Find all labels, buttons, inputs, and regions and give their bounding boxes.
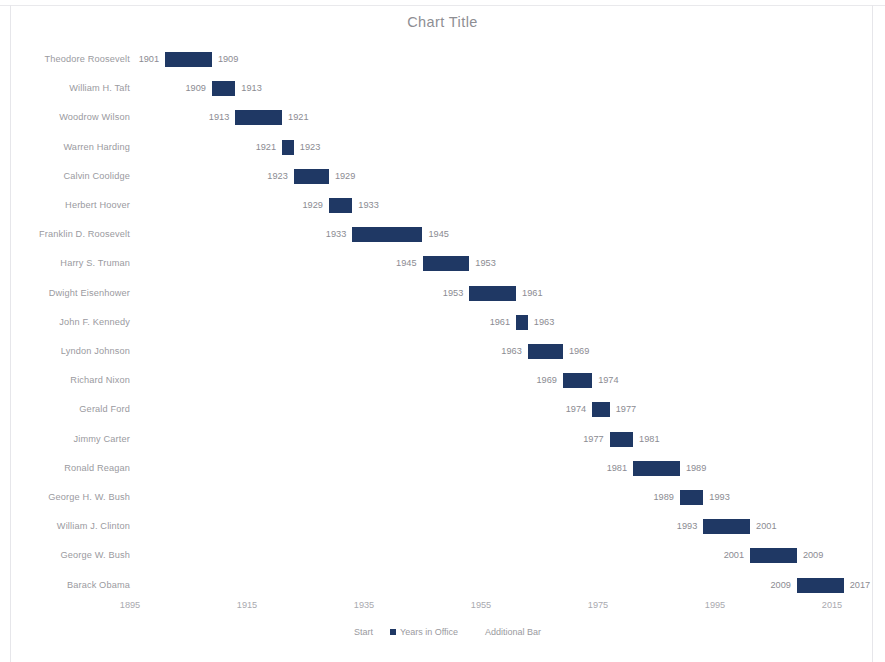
category-label: Ronald Reagan <box>0 457 130 479</box>
bar-start-label: 1909 <box>154 77 206 99</box>
bar-start-label: 1977 <box>552 428 604 450</box>
gantt-bar[interactable] <box>563 373 592 388</box>
gantt-row: Franklin D. Roosevelt19331945 <box>0 223 885 245</box>
gantt-bar[interactable] <box>797 578 844 593</box>
gantt-row: Calvin Coolidge19231929 <box>0 165 885 187</box>
category-label: Franklin D. Roosevelt <box>0 223 130 245</box>
gantt-bar[interactable] <box>282 140 294 155</box>
category-label: Lyndon Johnson <box>0 340 130 362</box>
bar-start-label: 1921 <box>224 136 276 158</box>
gantt-row: Warren Harding19211923 <box>0 136 885 158</box>
bar-end-label: 1953 <box>475 252 495 274</box>
category-label: George W. Bush <box>0 544 130 566</box>
category-label: William J. Clinton <box>0 515 130 537</box>
bar-end-label: 1993 <box>709 486 729 508</box>
gantt-row: Jimmy Carter19771981 <box>0 428 885 450</box>
x-axis: 1895191519351955197519952015 <box>0 600 885 618</box>
bar-end-label: 1977 <box>616 398 636 420</box>
bar-end-label: 1961 <box>522 282 542 304</box>
bar-start-label: 1901 <box>107 48 159 70</box>
gantt-row: Dwight Eisenhower19531961 <box>0 282 885 304</box>
bar-end-label: 1929 <box>335 165 355 187</box>
gantt-row: Barack Obama20092017 <box>0 574 885 596</box>
gantt-row: George W. Bush20012009 <box>0 544 885 566</box>
gantt-row: Theodore Roosevelt19011909 <box>0 48 885 70</box>
gantt-row: William J. Clinton19932001 <box>0 515 885 537</box>
category-label: Richard Nixon <box>0 369 130 391</box>
bar-start-label: 1913 <box>177 106 229 128</box>
gantt-row: Herbert Hoover19291933 <box>0 194 885 216</box>
category-label: William H. Taft <box>0 77 130 99</box>
bar-start-label: 1989 <box>622 486 674 508</box>
chart-legend: StartYears in OfficeAdditional Bar <box>0 627 885 637</box>
plot-area: Theodore Roosevelt19011909William H. Taf… <box>0 0 885 662</box>
x-axis-tick-label: 1975 <box>568 600 628 610</box>
gantt-bar[interactable] <box>212 81 235 96</box>
bar-end-label: 1981 <box>639 428 659 450</box>
category-label: Dwight Eisenhower <box>0 282 130 304</box>
legend-label: Start <box>354 627 373 637</box>
bar-start-label: 1969 <box>505 369 557 391</box>
bar-start-label: 1953 <box>411 282 463 304</box>
gantt-bar[interactable] <box>610 432 633 447</box>
bar-end-label: 1933 <box>358 194 378 216</box>
gantt-row: Harry S. Truman19451953 <box>0 252 885 274</box>
legend-swatch-icon <box>475 629 481 635</box>
x-axis-tick-label: 1955 <box>451 600 511 610</box>
bar-start-label: 1945 <box>365 252 417 274</box>
x-axis-tick-label: 1935 <box>334 600 394 610</box>
bar-start-label: 1993 <box>645 515 697 537</box>
bar-start-label: 1961 <box>458 311 510 333</box>
gantt-bar[interactable] <box>528 344 563 359</box>
bar-end-label: 1923 <box>300 136 320 158</box>
category-label: George H. W. Bush <box>0 486 130 508</box>
gantt-bar[interactable] <box>235 110 282 125</box>
x-axis-tick-label: 2015 <box>802 600 862 610</box>
legend-label: Additional Bar <box>485 627 541 637</box>
gantt-row: William H. Taft19091913 <box>0 77 885 99</box>
gantt-bar[interactable] <box>329 198 352 213</box>
gantt-bar[interactable] <box>592 402 610 417</box>
bar-start-label: 1963 <box>470 340 522 362</box>
bar-end-label: 1913 <box>241 77 261 99</box>
category-label: Calvin Coolidge <box>0 165 130 187</box>
bar-start-label: 1929 <box>271 194 323 216</box>
gantt-bar[interactable] <box>294 169 329 184</box>
bar-start-label: 2001 <box>692 544 744 566</box>
gantt-bar[interactable] <box>423 256 470 271</box>
bar-start-label: 1981 <box>575 457 627 479</box>
gantt-bar[interactable] <box>516 315 528 330</box>
gantt-bar[interactable] <box>703 519 750 534</box>
legend-label: Years in Office <box>400 627 458 637</box>
bar-end-label: 1969 <box>569 340 589 362</box>
bar-end-label: 1909 <box>218 48 238 70</box>
gantt-row: Richard Nixon19691974 <box>0 369 885 391</box>
gantt-bar[interactable] <box>633 461 680 476</box>
bar-end-label: 1945 <box>429 223 449 245</box>
category-label: John F. Kennedy <box>0 311 130 333</box>
bar-end-label: 1963 <box>534 311 554 333</box>
gantt-bar[interactable] <box>352 227 422 242</box>
legend-item[interactable]: Years in Office <box>390 627 458 637</box>
category-label: Harry S. Truman <box>0 252 130 274</box>
bar-end-label: 1974 <box>598 369 618 391</box>
bar-end-label: 2001 <box>756 515 776 537</box>
x-axis-tick-label: 1895 <box>100 600 160 610</box>
legend-item[interactable]: Start <box>344 627 373 637</box>
category-label: Barack Obama <box>0 574 130 596</box>
legend-item[interactable]: Additional Bar <box>475 627 541 637</box>
bar-end-label: 2017 <box>850 574 870 596</box>
gantt-bar[interactable] <box>680 490 703 505</box>
bar-start-label: 1923 <box>236 165 288 187</box>
gantt-bar[interactable] <box>750 548 797 563</box>
category-label: Gerald Ford <box>0 398 130 420</box>
gantt-row: Ronald Reagan19811989 <box>0 457 885 479</box>
bar-start-label: 1974 <box>534 398 586 420</box>
gantt-bar[interactable] <box>165 52 212 67</box>
gantt-bar[interactable] <box>469 286 516 301</box>
bar-end-label: 1989 <box>686 457 706 479</box>
legend-swatch-icon <box>390 629 396 635</box>
gantt-row: Woodrow Wilson19131921 <box>0 106 885 128</box>
gantt-row: John F. Kennedy19611963 <box>0 311 885 333</box>
bar-end-label: 2009 <box>803 544 823 566</box>
